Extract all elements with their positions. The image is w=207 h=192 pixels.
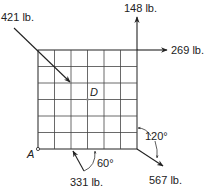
point-a-marker: [36, 147, 39, 150]
force-331-label: 331 lb.: [70, 176, 103, 188]
force-421-arrow: [14, 28, 70, 82]
force-331-arrow: [73, 151, 84, 171]
angle-120-arc-lower: [155, 141, 157, 158]
force-148-label: 148 lb.: [124, 2, 157, 14]
point-d-label: D: [90, 86, 98, 98]
point-d-marker: [86, 98, 88, 100]
angle-60-label: 60°: [97, 157, 114, 169]
angle-120-label: 120°: [145, 130, 168, 142]
angle-60-arc: [84, 151, 95, 171]
force-269-label: 269 lb.: [171, 44, 204, 56]
force-567-arrow: [137, 149, 163, 166]
force-567-label: 567 lb.: [149, 174, 182, 186]
point-a-label: A: [27, 148, 34, 160]
force-421-label: 421 lb.: [1, 11, 34, 23]
